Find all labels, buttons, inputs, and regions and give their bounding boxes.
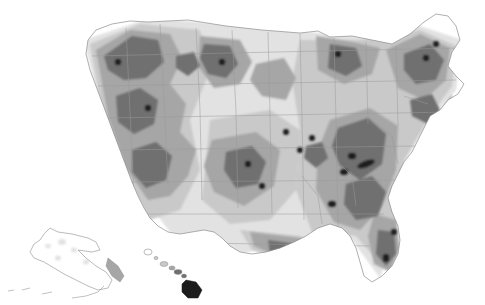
aleutian-islands — [8, 286, 104, 298]
alaska-inset — [8, 225, 124, 298]
map-figure: United States Alaska Hawaii — [0, 0, 485, 305]
us-density-map — [0, 0, 485, 305]
hawaii-islands — [144, 249, 202, 298]
hawaii-big-island — [182, 280, 202, 298]
contiguous-us-layer — [28, 10, 470, 295]
hawaii-inset — [144, 249, 202, 298]
